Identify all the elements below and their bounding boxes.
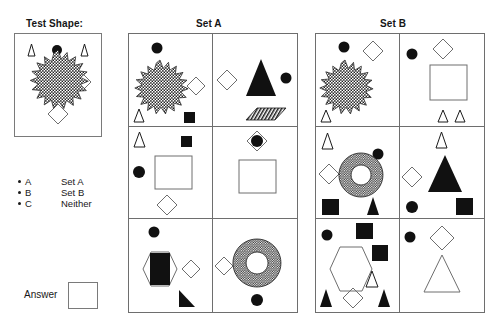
donut-textured-icon <box>233 239 281 287</box>
legend-key: C <box>25 198 61 209</box>
set-b-cell-5-figure <box>316 219 400 311</box>
set-a-cell-6[interactable] <box>213 219 297 312</box>
circle-filled-icon <box>407 49 418 60</box>
triangle-filled-icon <box>378 289 390 307</box>
diamond-outline-icon <box>217 70 237 90</box>
set-a-title: Set A <box>196 18 222 29</box>
set-b-cell-1-figure <box>316 34 400 126</box>
hexagon-outline-icon <box>330 247 372 291</box>
triangle-outline-icon <box>455 110 465 122</box>
legend-key: B <box>25 187 61 198</box>
triangle-outline-icon <box>81 44 88 56</box>
square-filled-icon <box>181 136 192 147</box>
circle-filled-icon <box>251 294 263 306</box>
circle-filled-icon <box>406 201 418 213</box>
donut-textured-icon <box>339 153 383 197</box>
set-b-cell-1[interactable] <box>316 34 400 127</box>
legend-key: A <box>25 176 61 187</box>
square-outline-large-icon <box>155 156 192 189</box>
diamond-outline-icon <box>363 41 383 61</box>
set-b-cell-3-figure <box>316 127 400 219</box>
circle-filled-icon <box>149 227 160 238</box>
set-b-cell-5[interactable] <box>316 219 400 312</box>
set-a-cell-5[interactable] <box>129 219 213 312</box>
answer-label: Answer <box>24 289 57 300</box>
triangle-outline-large-icon <box>424 255 460 292</box>
test-shape-figure <box>15 34 101 136</box>
diamond-outline-with-circle-icon <box>247 131 267 151</box>
bullet-dot-icon <box>18 191 21 194</box>
circle-filled-icon <box>339 42 350 53</box>
set-b-title: Set B <box>380 18 406 29</box>
diamond-outline-icon <box>157 195 177 215</box>
starburst-textured-icon <box>135 60 188 114</box>
legend-value: Set A <box>61 176 84 187</box>
set-a-cell-4-figure <box>213 127 297 219</box>
square-filled-icon <box>372 245 388 261</box>
set-b-grid <box>315 33 485 313</box>
diamond-outline-icon <box>402 167 422 187</box>
set-b-cell-6[interactable] <box>400 219 484 312</box>
triangle-outline-icon <box>134 132 145 147</box>
square-filled-icon <box>456 198 473 215</box>
set-a-cell-6-figure <box>213 219 297 311</box>
diamond-outline-icon <box>215 257 233 275</box>
triangle-filled-icon <box>367 197 379 215</box>
legend-value: Set B <box>61 187 84 198</box>
legend-row: C Neither <box>18 198 92 209</box>
circle-filled-icon <box>322 230 333 241</box>
set-a-cell-1[interactable] <box>129 34 213 127</box>
rectangle-filled-icon <box>150 253 170 285</box>
triangle-outline-icon <box>436 132 447 148</box>
square-filled-icon <box>356 223 373 239</box>
square-outline-large-icon <box>430 65 467 100</box>
triangle-outline-icon <box>28 44 35 56</box>
bullet-dot-icon <box>18 202 21 205</box>
set-a-cell-4[interactable] <box>213 127 297 220</box>
set-a-cell-5-figure <box>129 219 213 311</box>
circle-filled-icon <box>152 43 163 54</box>
right-triangle-filled-icon <box>179 290 195 307</box>
test-shape-panel <box>14 33 102 137</box>
answer-input-box[interactable] <box>68 282 98 309</box>
test-shape-title: Test Shape: <box>26 18 83 29</box>
legend-value: Neither <box>61 198 92 209</box>
diamond-outline-icon <box>433 39 453 59</box>
triangle-outline-icon <box>134 109 144 122</box>
legend-row: A Set A <box>18 176 92 187</box>
triangle-filled-large-icon <box>428 155 462 192</box>
set-b-cell-2-figure <box>400 34 484 126</box>
diamond-outline-icon <box>182 260 200 278</box>
square-outline-large-icon <box>239 160 276 193</box>
circle-filled-icon <box>133 166 145 178</box>
diamond-outline-icon <box>319 164 339 184</box>
set-b-cell-4-figure <box>400 127 484 219</box>
bullet-dot-icon <box>18 180 21 183</box>
legend: A Set A B Set B C Neither <box>18 176 92 209</box>
triangle-outline-icon <box>438 110 448 122</box>
circle-filled-icon <box>405 232 416 243</box>
circle-filled-icon <box>251 135 263 147</box>
set-b-cell-4[interactable] <box>400 127 484 220</box>
square-filled-icon <box>322 199 339 215</box>
set-a-cell-1-figure <box>129 34 213 126</box>
diamond-outline-icon <box>430 226 454 250</box>
starburst-textured-icon <box>30 50 88 109</box>
set-a-cell-2[interactable] <box>213 34 297 127</box>
set-b-cell-3[interactable] <box>316 127 400 220</box>
triangle-outline-icon <box>321 110 331 122</box>
square-filled-icon <box>184 112 195 123</box>
set-b-cell-2[interactable] <box>400 34 484 127</box>
circle-filled-icon <box>281 73 292 84</box>
set-a-cell-3[interactable] <box>129 127 213 220</box>
triangle-filled-icon <box>320 289 332 307</box>
diamond-outline-icon <box>187 77 205 95</box>
triangle-outline-icon <box>322 133 333 149</box>
set-a-grid <box>128 33 298 313</box>
parallelogram-textured-icon <box>246 108 286 120</box>
triangle-filled-large-icon <box>246 59 276 96</box>
starburst-textured-icon <box>320 60 373 114</box>
diamond-outline-icon <box>48 104 68 124</box>
legend-row: B Set B <box>18 187 92 198</box>
set-b-cell-6-figure <box>400 219 484 311</box>
